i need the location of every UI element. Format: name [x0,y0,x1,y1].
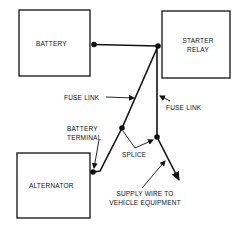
splice-dot-left [119,125,125,131]
battery-terminal-label: BATTERY TERMINAL [67,124,101,142]
starter-relay-label: STARTER RELAY [178,36,218,54]
supply-wire-label-line1: SUPPLY WIRE TO [100,189,190,198]
supply-wire-leader [142,161,165,188]
supply-wire-label: SUPPLY WIRE TO VEHICLE EQUIPMENT [100,189,190,207]
fuse-link-left-label: FUSE LINK [64,93,99,102]
starter-relay-label-line1: STARTER [178,36,218,45]
fuse-link-right-leader [160,96,170,101]
alternator-terminal-dot [90,169,96,175]
fuse-link-right-label: FUSE LINK [166,103,201,112]
starter-relay-label-line2: RELAY [178,45,218,54]
battery-terminal-dot [91,42,97,48]
supply-wire [157,137,179,180]
battery-terminal-label-line2: TERMINAL [67,133,101,142]
splice-dot-right [154,134,160,140]
battery-relay-wire [94,45,158,47]
fuse-link-left-wire [122,46,158,128]
fuse-link-left-leader [106,97,134,98]
relay-junction-dot [155,43,161,49]
battery-label: BATTERY [36,39,67,48]
splice-label: SPLICE [122,150,146,159]
splice-leader [123,131,153,148]
alternator-label: ALTERNATOR [29,181,74,190]
battery-terminal-label-line1: BATTERY [67,124,101,133]
battery-terminal-leader [94,140,99,168]
supply-wire-label-line2: VEHICLE EQUIPMENT [100,198,190,207]
